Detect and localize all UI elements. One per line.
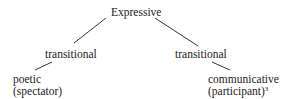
participant-text: (participant) [208,85,265,97]
leaf-spectator: (spectator) [13,85,62,97]
leaf-communicative: communicative [208,73,279,85]
leaf-poetic: poetic [13,73,41,85]
root-node-expressive: Expressive [111,6,161,18]
leaf-participant: (participant)3 [208,85,268,97]
node-transitional-right: transitional [175,48,227,60]
footnote-marker: 3 [265,85,269,93]
node-transitional-left: transitional [45,48,97,60]
